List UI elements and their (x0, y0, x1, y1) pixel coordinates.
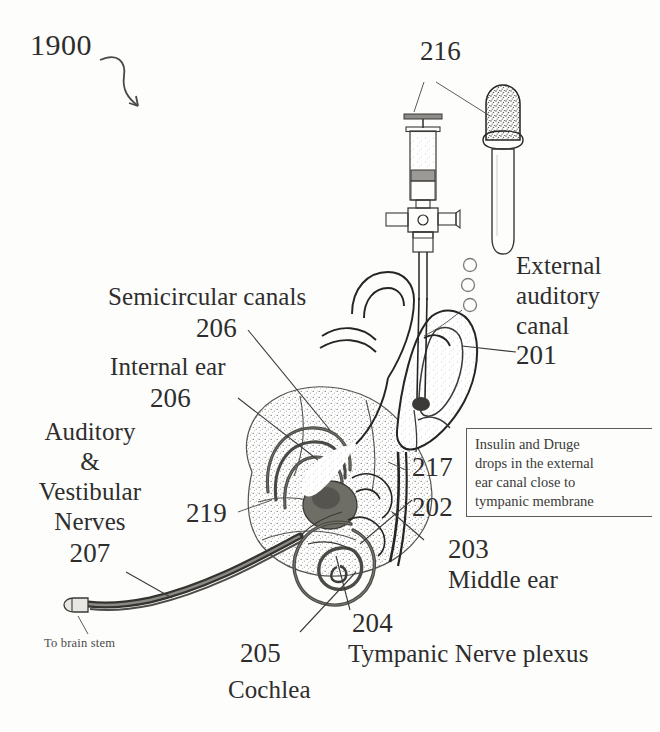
callout-line-2: drops in the external (475, 454, 648, 473)
middle-ear-label: Middle ear (448, 566, 558, 595)
callout-line-1: Insulin and Druge (475, 435, 648, 454)
leader-217 (388, 462, 406, 470)
ref-201: 201 (516, 340, 557, 371)
internal-ear-label: Internal ear (110, 353, 226, 382)
syringe-icon (386, 114, 460, 300)
leader-216-syringe (414, 82, 424, 112)
curved-arrow-icon (100, 57, 138, 106)
external-auditory-canal-line3: canal (516, 312, 569, 341)
leader-206-internal (238, 398, 318, 460)
middle-ear-structures (348, 452, 407, 566)
ref-204: 204 (352, 608, 393, 639)
to-brain-stem-label: To brain stem (44, 636, 115, 650)
tympanic-nerve-plexus-label: Tympanic Nerve plexus (348, 640, 589, 669)
ref-206-semicircular: 206 (196, 313, 237, 344)
leader-202 (360, 500, 412, 544)
leader-205 (300, 572, 356, 632)
leader-201 (462, 346, 516, 352)
ref-203: 203 (448, 534, 489, 565)
leader-216-dropper (436, 82, 490, 116)
figure-illustration (0, 0, 660, 732)
cochlea-label: Cochlea (228, 676, 311, 705)
auditory-nerves-line2: & (10, 448, 170, 477)
droplets-icon (462, 259, 477, 312)
auditory-nerves-line4: Nerves (10, 508, 170, 537)
leader-brainstem (78, 616, 88, 634)
semicircular-canals-icon (267, 428, 357, 529)
cranial-outline (302, 272, 414, 496)
callout-box: Insulin and Druge drops in the external … (466, 428, 652, 517)
leader-207 (126, 572, 172, 598)
ref-217: 217 (412, 452, 453, 483)
ref-205: 205 (240, 638, 281, 669)
ref-219: 219 (186, 498, 227, 529)
ref-216: 216 (420, 36, 461, 67)
patent-figure-1900: 1900 216 External auditory canal 201 Sem… (0, 0, 660, 732)
semicircular-canals-label: Semicircular canals (108, 283, 306, 312)
figure-number: 1900 (30, 28, 92, 62)
ref-207: 207 (10, 538, 170, 569)
leader-droplets (424, 310, 462, 336)
delivery-tube-icon (412, 298, 430, 452)
external-auditory-canal-line2: auditory (516, 282, 600, 311)
cochlea-spiral-icon (294, 522, 374, 605)
auditory-nerves-line3: Vestibular (10, 478, 170, 507)
leader-206-semicircular (248, 330, 330, 430)
leader-219 (238, 500, 272, 512)
temporal-bone-mass (247, 387, 432, 576)
external-auditory-canal-line1: External (516, 252, 601, 281)
auditory-nerves-line1: Auditory (10, 418, 170, 447)
callout-line-3: ear canal close to (475, 473, 648, 492)
ref-202: 202 (412, 492, 453, 523)
callout-line-4: tympanic membrane (475, 492, 648, 511)
leader-204 (336, 556, 350, 610)
dropper-icon (483, 85, 523, 254)
ref-206-internal: 206 (150, 383, 191, 414)
